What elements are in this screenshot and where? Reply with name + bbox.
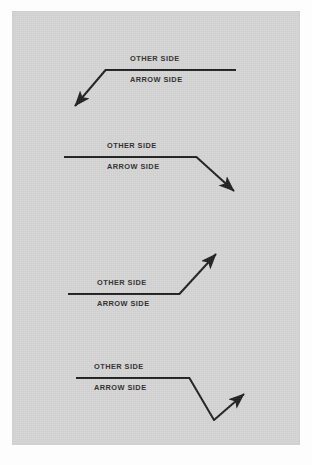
page-root: OTHER SIDE ARROW SIDE OTHER SIDE ARROW S… <box>0 0 312 465</box>
figure-2-arrow-side-label: ARROW SIDE <box>107 163 160 170</box>
leader-arrow-1 <box>75 70 106 106</box>
figure-1-arrow-side-label: ARROW SIDE <box>130 76 183 83</box>
figure-4-arrow-side-label: ARROW SIDE <box>94 384 147 391</box>
figure-2-other-side-label: OTHER SIDE <box>107 142 157 149</box>
leader-bend-4 <box>189 378 214 420</box>
figure-3-other-side-label: OTHER SIDE <box>97 279 147 286</box>
figure-4-other-side-label: OTHER SIDE <box>94 363 144 370</box>
diagram-plate: OTHER SIDE ARROW SIDE OTHER SIDE ARROW S… <box>12 11 300 445</box>
leader-arrow-3 <box>179 254 216 294</box>
leader-arrow-2 <box>196 157 234 191</box>
figure-1-other-side-label: OTHER SIDE <box>130 55 180 62</box>
leader-arrow-4 <box>214 394 244 420</box>
figure-3-arrow-side-label: ARROW SIDE <box>97 300 150 307</box>
figure-3-lines <box>68 254 216 294</box>
